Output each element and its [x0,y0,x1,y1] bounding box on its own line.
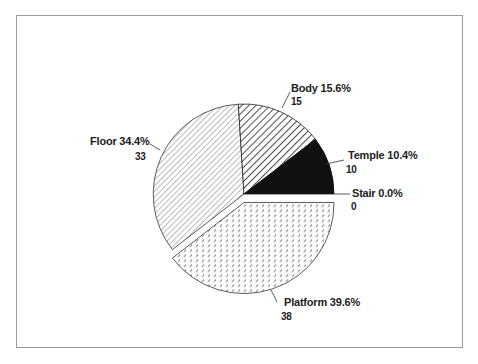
leader-floor [150,144,160,150]
count-floor: 33 [135,151,146,162]
label-platform: Platform 39.6% [284,296,360,308]
leader-platform [271,290,277,302]
count-stair: 0 [351,201,356,212]
label-floor: Floor 34.4% [90,135,150,147]
leader-body [282,92,290,108]
count-body: 15 [291,96,302,107]
count-platform: 38 [281,311,292,322]
label-body: Body 15.6% [291,82,351,94]
label-temple: Temple 10.4% [348,149,418,161]
label-stair: Stair 0.0% [352,187,403,199]
count-temple: 10 [346,164,357,175]
pie-chart [0,0,478,364]
